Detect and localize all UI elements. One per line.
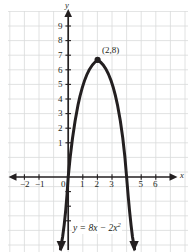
y-tick-8: 8 bbox=[58, 36, 63, 45]
x-tick-2: 2 bbox=[95, 180, 100, 189]
y-tick-6: 6 bbox=[58, 66, 63, 75]
y-axis-top-arrow bbox=[64, 9, 72, 17]
equation-exponent: 2 bbox=[117, 221, 120, 228]
equation-text: y = 8x − 2x bbox=[73, 223, 117, 233]
y-tick-7: 7 bbox=[58, 51, 63, 60]
y-tick-9: 9 bbox=[58, 22, 63, 31]
x-axis-right-arrow bbox=[170, 173, 178, 181]
curve-left-arrow bbox=[57, 241, 66, 252]
vertex-annotation: (2,8) bbox=[102, 46, 119, 55]
curve-right-arrow bbox=[129, 241, 138, 252]
x-tick--2: −2 bbox=[20, 180, 30, 189]
grid-lines bbox=[8, 11, 188, 252]
vertex-point bbox=[95, 57, 101, 63]
x-tick-6: 6 bbox=[153, 180, 158, 189]
y-tick-3: 3 bbox=[58, 109, 63, 118]
y-tick-1: 1 bbox=[58, 139, 63, 148]
y-axis-label: y bbox=[65, 1, 69, 10]
x-tick-5: 5 bbox=[138, 180, 143, 189]
y-tick-4: 4 bbox=[58, 95, 63, 104]
figure-canvas: y x (2,8) −2 −1 0 1 2 3 5 6 1 2 3 4 5 6 … bbox=[0, 0, 195, 252]
parabola-plot bbox=[0, 0, 195, 252]
x-tick-3: 3 bbox=[109, 180, 114, 189]
equation-annotation: y = 8x − 2x2 bbox=[72, 222, 122, 234]
y-tick-5: 5 bbox=[58, 80, 63, 89]
x-axis-label: x bbox=[180, 171, 184, 180]
x-tick-1: 1 bbox=[80, 180, 85, 189]
x-tick--1: −1 bbox=[35, 180, 45, 189]
x-tick-0: 0 bbox=[61, 180, 66, 189]
y-tick-2: 2 bbox=[58, 124, 63, 133]
